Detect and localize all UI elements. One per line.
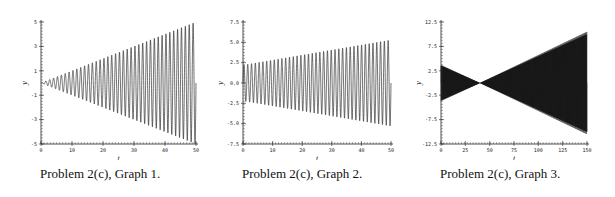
- y-tick-label: -12.5: [422, 141, 437, 147]
- graph-3-panel: 12.57.52.5-2.5-7.5-12.50255075100125150t…: [410, 0, 615, 160]
- x-tick-label: 75: [511, 147, 517, 153]
- y-tick-label: 12.5: [425, 19, 437, 25]
- y-tick-label: -3: [31, 116, 37, 122]
- y-axis-label: y: [20, 81, 29, 86]
- x-tick-label: 100: [534, 147, 543, 153]
- y-axis-label: y: [216, 81, 225, 86]
- x-tick-label: 20: [100, 147, 106, 153]
- series-line: [243, 40, 391, 126]
- x-tick-label: 50: [193, 147, 199, 153]
- graph-2-panel: 7.55.02.50.0-2.5-5.0-7.501020304050ty: [205, 0, 410, 160]
- x-tick-label: 40: [162, 147, 168, 153]
- y-tick-label: -1: [31, 92, 37, 98]
- y-tick-label: 2.5: [230, 59, 239, 65]
- y-tick-label: 7.5: [230, 19, 239, 25]
- y-tick-label: -2.5: [227, 100, 239, 106]
- y-tick-label: 5: [34, 19, 37, 25]
- x-tick-label: 125: [558, 147, 567, 153]
- graph-1-panel: 531-1-3-501020304050ty: [0, 0, 205, 160]
- y-tick-label: -7.5: [425, 116, 437, 122]
- x-tick-label: 0: [241, 147, 244, 153]
- y-tick-label: -2.5: [425, 92, 437, 98]
- series-line: [441, 32, 587, 134]
- y-tick-label: -5: [31, 141, 37, 147]
- x-tick-label: 150: [582, 147, 591, 153]
- x-tick-label: 40: [358, 147, 364, 153]
- y-tick-label: 5.0: [230, 39, 239, 45]
- graph-1-caption: Problem 2(c), Graph 1.: [40, 166, 160, 182]
- x-axis-label: t: [316, 154, 319, 160]
- series-line: [41, 23, 196, 143]
- x-tick-label: 0: [39, 147, 42, 153]
- y-tick-label: 2.5: [428, 68, 437, 74]
- x-tick-label: 25: [462, 147, 468, 153]
- x-tick-label: 0: [439, 147, 442, 153]
- y-tick-label: 3: [34, 43, 37, 49]
- y-tick-label: 1: [34, 68, 37, 74]
- graph-1-chart: 531-1-3-501020304050ty: [0, 0, 205, 160]
- graph-3-chart: 12.57.52.5-2.5-7.5-12.50255075100125150t…: [410, 0, 615, 160]
- y-tick-label: -7.5: [227, 141, 239, 147]
- x-axis-label: t: [117, 154, 120, 160]
- x-tick-label: 20: [299, 147, 305, 153]
- y-tick-label: 0.0: [230, 80, 239, 86]
- y-tick-label: -5.0: [227, 120, 239, 126]
- x-tick-label: 10: [270, 147, 276, 153]
- x-tick-label: 10: [69, 147, 75, 153]
- graph-3-caption: Problem 2(c), Graph 3.: [440, 166, 560, 182]
- x-axis-label: t: [513, 154, 516, 160]
- graph-2-chart: 7.55.02.50.0-2.5-5.0-7.501020304050ty: [205, 0, 410, 160]
- x-tick-label: 30: [329, 147, 335, 153]
- x-tick-label: 50: [487, 147, 493, 153]
- x-tick-label: 30: [131, 147, 137, 153]
- graph-2-caption: Problem 2(c), Graph 2.: [242, 166, 362, 182]
- x-tick-label: 50: [388, 147, 394, 153]
- y-tick-label: 7.5: [428, 43, 437, 49]
- y-axis-label: y: [414, 81, 423, 86]
